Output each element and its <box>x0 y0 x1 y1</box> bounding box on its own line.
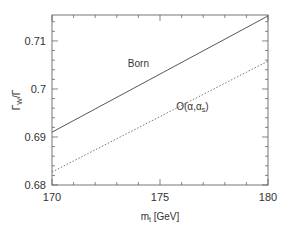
x-axis-label: mt [GeV] <box>141 211 180 223</box>
x-tick-label: 180 <box>259 191 277 203</box>
x-tick-label: 175 <box>151 191 169 203</box>
series-group <box>52 16 268 172</box>
plot-frame <box>52 15 268 185</box>
y-tick-label: 0.68 <box>25 179 46 191</box>
series-line-oalpha <box>52 61 268 172</box>
annotation-born: Born <box>128 58 149 69</box>
labels-group: 1701751800.680.690.70.71BornO(α,αs) <box>25 35 278 203</box>
annotation-oalpha: O(α,αs) <box>176 101 208 113</box>
y-axis-label: ΓW/Γ <box>11 89 23 110</box>
x-tick-label: 170 <box>43 191 61 203</box>
y-tick-label: 0.71 <box>25 35 46 47</box>
series-line-born <box>52 16 268 132</box>
y-tick-label: 0.69 <box>25 131 46 143</box>
y-tick-label: 0.7 <box>31 83 46 95</box>
ticks <box>52 15 268 185</box>
chart: 1701751800.680.690.70.71BornO(α,αs) mt [… <box>0 0 291 230</box>
